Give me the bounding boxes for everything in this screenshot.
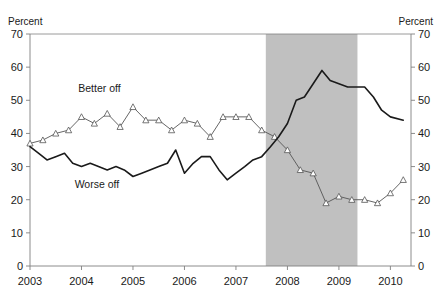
y-tick-label-right: 10 [418, 227, 430, 239]
y-tick-label-left: 10 [11, 227, 23, 239]
y-tick-label-left: 40 [11, 127, 23, 139]
y-tick-label-right: 70 [418, 28, 430, 40]
y-tick-label-left: 50 [11, 94, 23, 106]
x-tick-label: 2006 [172, 275, 196, 287]
x-tick-label: 2007 [224, 275, 248, 287]
x-tick-label: 2010 [378, 275, 402, 287]
y-tick-label-right: 40 [418, 127, 430, 139]
y-tick-label-right: 20 [418, 194, 430, 206]
y-tick-label-left: 60 [11, 61, 23, 73]
y-tick-label-left: 20 [11, 194, 23, 206]
x-tick-label: 2004 [69, 275, 93, 287]
y-tick-label-right: 30 [418, 161, 430, 173]
y-tick-label-right: 0 [418, 260, 424, 272]
worse-off-label: Worse off [75, 178, 120, 190]
left-axis-title: Percent [8, 16, 43, 27]
x-tick-label: 2005 [121, 275, 145, 287]
y-tick-label-right: 50 [418, 94, 430, 106]
right-axis-title: Percent [399, 16, 434, 27]
y-tick-label-left: 30 [11, 161, 23, 173]
recession-shading-group [266, 34, 358, 266]
recession-band [266, 34, 358, 266]
x-tick-label: 2003 [18, 275, 42, 287]
percent-line-chart: 0010102020303040405050606070702003200420… [0, 0, 441, 300]
chart-container: 0010102020303040405050606070702003200420… [0, 0, 441, 300]
y-tick-label-left: 70 [11, 28, 23, 40]
y-tick-label-left: 0 [17, 260, 23, 272]
y-tick-label-right: 60 [418, 61, 430, 73]
x-tick-label: 2008 [275, 275, 299, 287]
chart-background [0, 0, 441, 300]
x-tick-label: 2009 [327, 275, 351, 287]
better-off-label: Better off [78, 82, 120, 94]
